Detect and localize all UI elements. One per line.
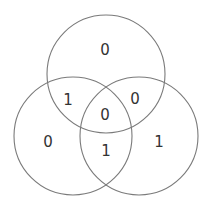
region-left-right-label: 1 bbox=[101, 142, 111, 160]
region-top-left-label: 1 bbox=[63, 91, 73, 109]
region-center-label: 0 bbox=[100, 106, 110, 124]
region-right-only-label: 1 bbox=[154, 133, 164, 151]
region-left-only-label: 0 bbox=[43, 133, 53, 151]
region-top-only-label: 0 bbox=[100, 41, 110, 59]
circle-left bbox=[14, 77, 132, 195]
region-top-right-label: 0 bbox=[130, 90, 140, 108]
venn-diagram: 0 1 0 0 0 1 1 bbox=[0, 0, 208, 208]
